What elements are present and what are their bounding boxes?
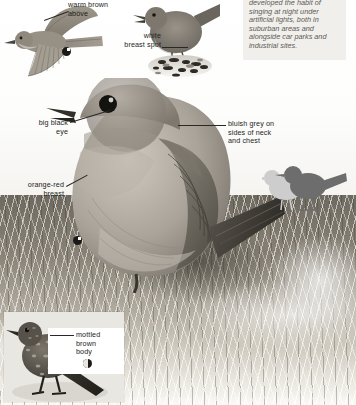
label-bluish-grey: bluish grey on sides of neck and chest bbox=[228, 120, 308, 146]
pie-chart-icon bbox=[62, 47, 71, 56]
label-white-breast-spot: white breast spot bbox=[105, 32, 161, 49]
leader-line-bluish-grey bbox=[178, 125, 226, 126]
label-line-2: above bbox=[68, 10, 128, 19]
pie-chart-icon bbox=[83, 359, 92, 368]
field-guide-plate: developed the habit of singing at night … bbox=[0, 0, 356, 405]
label-warm-brown-above: warm brown above bbox=[68, 1, 128, 18]
intro-text: developed the habit of singing at night … bbox=[249, 0, 345, 50]
label-orange-red-breast: orange-red breast bbox=[10, 181, 64, 198]
figure-silhouette-pair bbox=[262, 158, 354, 216]
label-line-3: body bbox=[76, 348, 122, 357]
label-line-3: and chest bbox=[228, 137, 308, 146]
leader-line-mottled-brown-body bbox=[50, 335, 74, 336]
label-mottled-brown-body: mottled brown body bbox=[76, 331, 122, 357]
label-big-black-eye: big black eye bbox=[18, 119, 68, 136]
label-line-2: breast bbox=[10, 190, 64, 199]
label-line-2: breast spot bbox=[105, 41, 161, 50]
leader-line-white-breast-spot bbox=[162, 47, 188, 48]
figure-main-robin bbox=[40, 78, 285, 293]
label-line-2: eye bbox=[18, 128, 68, 137]
pie-chart-icon bbox=[73, 236, 82, 245]
